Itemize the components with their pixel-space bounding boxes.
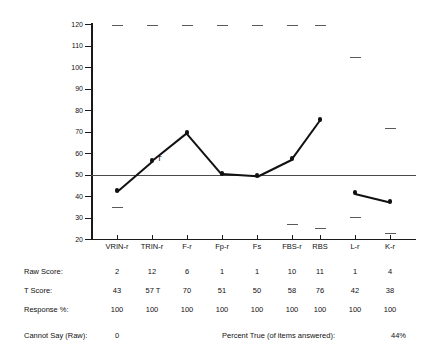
response-pct-fs: 100 xyxy=(237,305,277,314)
raw-score-fs: 1 xyxy=(237,267,277,276)
y-tick-label: 60 xyxy=(57,150,83,157)
y-tick-label: 30 xyxy=(57,214,83,221)
data-point-trin-r xyxy=(150,158,155,163)
x-tick-label-k-r: K-r xyxy=(360,243,420,251)
y-tick-label: 70 xyxy=(57,128,83,135)
t-score-k-r: 38 xyxy=(370,286,410,295)
raw-score-vrin-r: 2 xyxy=(97,267,137,276)
data-point-fs xyxy=(255,173,260,178)
percent-true-value: 44% xyxy=(391,331,406,340)
raw-score-trin-r: 12 xyxy=(132,267,172,276)
chart-area: 120 110 100 90 80 70 60 50 40 30 20 xyxy=(0,0,436,255)
score-table: Raw Score: 2 12 6 1 1 10 11 1 4 T Score:… xyxy=(0,255,436,347)
raw-score-f-r: 6 xyxy=(167,267,207,276)
raw-score-fp-r: 1 xyxy=(202,267,242,276)
t-score-l-r: 42 xyxy=(335,286,375,295)
x-axis-line xyxy=(91,239,416,241)
data-point-f-r xyxy=(185,130,190,135)
y-tick-label: 20 xyxy=(57,236,83,243)
y-tick-label: 50 xyxy=(57,171,83,178)
row-label-t-score: T Score: xyxy=(24,286,52,295)
data-point-fp-r xyxy=(220,171,225,176)
y-tick-label: 40 xyxy=(57,193,83,200)
response-pct-fp-r: 100 xyxy=(202,305,242,314)
data-point-rbs xyxy=(318,117,323,122)
y-tick-label: 100 xyxy=(57,64,83,71)
t-score-rbs: 76 xyxy=(300,286,340,295)
row-label-raw-score: Raw Score: xyxy=(24,267,63,276)
mmpi-validity-scale-profile: 120 110 100 90 80 70 60 50 40 30 20 xyxy=(0,0,436,347)
raw-score-rbs: 11 xyxy=(300,267,340,276)
t-score-vrin-r: 43 xyxy=(97,286,137,295)
t-score-fp-r: 51 xyxy=(202,286,242,295)
y-tick-label: 80 xyxy=(57,107,83,114)
data-point-fbs-r xyxy=(290,156,295,161)
y-tick-label: 120 xyxy=(57,21,83,28)
data-point-k-r xyxy=(388,199,393,204)
response-pct-rbs: 100 xyxy=(300,305,340,314)
y-tick-label: 110 xyxy=(57,42,83,49)
response-pct-f-r: 100 xyxy=(167,305,207,314)
t-score-fs: 50 xyxy=(237,286,277,295)
y-axis-line xyxy=(91,23,93,240)
row-label-response-pct: Response %: xyxy=(24,305,69,314)
raw-score-l-r: 1 xyxy=(335,267,375,276)
cannot-say-label: Cannot Say (Raw): xyxy=(24,331,87,340)
response-pct-trin-r: 100 xyxy=(132,305,172,314)
response-pct-k-r: 100 xyxy=(370,305,410,314)
response-pct-vrin-r: 100 xyxy=(97,305,137,314)
t-score-f-r: 70 xyxy=(167,286,207,295)
raw-score-k-r: 4 xyxy=(370,267,410,276)
trin-r-direction-flag: T xyxy=(157,155,162,163)
percent-true-label: Percent True (of items answered): xyxy=(222,331,335,340)
response-pct-l-r: 100 xyxy=(335,305,375,314)
cannot-say-value: 0 xyxy=(97,331,137,340)
data-point-vrin-r xyxy=(115,188,120,193)
y-tick-label: 90 xyxy=(57,85,83,92)
